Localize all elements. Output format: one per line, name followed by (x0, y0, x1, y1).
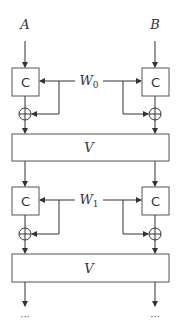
c-label-left: C (21, 75, 30, 90)
xor-icon (149, 228, 161, 240)
input-label-b: B (149, 17, 160, 32)
c-label-right: C (151, 194, 160, 209)
xor-icon (19, 108, 31, 120)
xor-icon (19, 228, 31, 240)
key-label-w1: W1 (79, 192, 98, 209)
round-1: C C W1 V (12, 187, 169, 282)
xor-icon (149, 108, 161, 120)
continuation-dots-right: ··· (150, 311, 160, 322)
round-0: C C W0 V (12, 68, 169, 161)
key-label-w0: W0 (79, 73, 98, 90)
c-label-right: C (151, 75, 160, 90)
continuation-dots-left: ··· (20, 311, 30, 322)
c-label-left: C (21, 194, 30, 209)
input-label-a: A (19, 17, 29, 32)
v-label: V (84, 140, 95, 155)
v-label: V (84, 261, 95, 276)
feistel-like-diagram: A B C C W0 V (0, 0, 179, 334)
